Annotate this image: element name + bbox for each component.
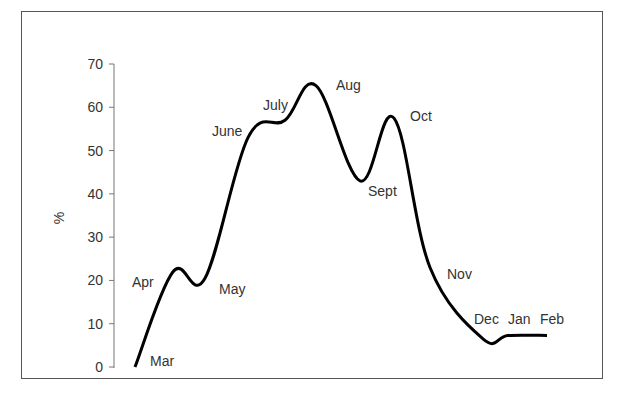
month-label-dec: Dec: [474, 311, 499, 327]
y-tick-label: 10: [87, 316, 103, 332]
y-tick-label: 60: [87, 99, 103, 115]
month-label-oct: Oct: [410, 108, 432, 124]
month-label-aug: Aug: [336, 77, 361, 93]
month-label-may: May: [219, 281, 245, 297]
month-label-june: June: [212, 123, 243, 139]
month-label-feb: Feb: [540, 311, 564, 327]
y-axis-ticks: 010203040506070: [87, 56, 114, 375]
y-tick-label: 50: [87, 143, 103, 159]
month-label-apr: Apr: [132, 274, 154, 290]
month-label-july: July: [263, 97, 288, 113]
month-label-jan: Jan: [508, 311, 531, 327]
y-tick-label: 0: [95, 359, 103, 375]
month-label-sept: Sept: [368, 183, 397, 199]
line-chart: 010203040506070 % MarAprMayJuneJulyAugSe…: [0, 0, 626, 397]
y-tick-label: 20: [87, 272, 103, 288]
y-tick-label: 70: [87, 56, 103, 72]
y-tick-label: 40: [87, 186, 103, 202]
month-labels: MarAprMayJuneJulyAugSeptOctNovDecJanFeb: [132, 77, 564, 369]
y-tick-label: 30: [87, 229, 103, 245]
month-label-nov: Nov: [447, 266, 472, 282]
y-axis-label: %: [51, 212, 67, 224]
month-label-mar: Mar: [150, 353, 174, 369]
